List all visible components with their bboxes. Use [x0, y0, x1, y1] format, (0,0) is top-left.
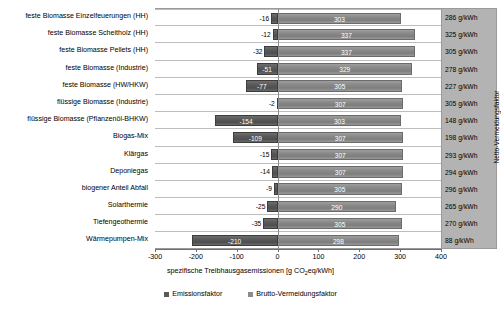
x-axis-tick [400, 249, 401, 252]
category-label: Wärmepumpen-Mix [0, 231, 152, 248]
x-axis-tick-label: 300 [394, 253, 406, 261]
category-label: Tiefengeothermie [0, 214, 152, 231]
x-axis-tick [318, 249, 319, 252]
bar-value-label: 303 [279, 116, 401, 127]
x-axis-line [155, 249, 441, 250]
bar-brutto-vermeidungsfaktor[interactable]: 329 [278, 63, 412, 74]
netto-value-cell: 305 g/kWh [442, 95, 488, 112]
x-axis-tick [196, 249, 197, 252]
netto-value-cell: 286 g/kWh [442, 9, 488, 26]
category-label: flüssige Biomasse (Industrie) [0, 94, 152, 111]
netto-value-cell: 148 g/kWh [442, 112, 488, 129]
bar-brutto-vermeidungsfaktor[interactable]: 303 [278, 115, 402, 126]
chart-row: -35305 [155, 215, 441, 232]
bar-value-label: -2 [269, 98, 275, 109]
netto-value-cell: 294 g/kWh [442, 164, 488, 181]
x-axis-tick-label: 0 [276, 253, 280, 261]
x-axis-tick-label: -200 [189, 253, 203, 261]
bar-brutto-vermeidungsfaktor[interactable]: 307 [278, 149, 403, 160]
chart-row: -154303 [155, 112, 441, 129]
chart-row: -14307 [155, 164, 441, 181]
bar-value-label: -16 [260, 13, 270, 24]
netto-value-cell: 278 g/kWh [442, 61, 488, 78]
bar-brutto-vermeidungsfaktor[interactable]: 305 [278, 218, 403, 229]
bar-value-label: 298 [279, 236, 399, 247]
category-label: biogener Anteil Abfall [0, 180, 152, 197]
bar-value-label: 337 [279, 30, 415, 41]
bar-value-label: -9 [266, 183, 272, 194]
bar-emissionsfaktor[interactable]: -210 [192, 235, 278, 246]
x-axis-tick [359, 249, 360, 252]
netto-axis-title-label: Netto-Vermeidungsfaktor [493, 9, 500, 245]
bar-emissionsfaktor[interactable] [267, 201, 277, 212]
netto-value-cell: 293 g/kWh [442, 147, 488, 164]
bar-emissionsfaktor[interactable] [263, 218, 277, 229]
x-axis-title: spezifische Treibhausgasemissionen [g CO… [0, 266, 501, 276]
zero-axis-line [278, 9, 279, 248]
category-label: Solarthermie [0, 197, 152, 214]
netto-value-cell: 198 g/kWh [442, 129, 488, 146]
bar-brutto-vermeidungsfaktor[interactable]: 307 [278, 132, 403, 143]
bar-brutto-vermeidungsfaktor[interactable]: 307 [278, 98, 403, 109]
netto-value-cell: 88 g/kWh [442, 232, 488, 249]
x-axis-tick [278, 249, 279, 252]
bar-brutto-vermeidungsfaktor[interactable]: 337 [278, 29, 416, 40]
bar-brutto-vermeidungsfaktor[interactable]: 290 [278, 201, 396, 212]
bar-value-label: 305 [279, 219, 402, 230]
netto-value-cell: 325 g/kWh [442, 26, 488, 43]
bar-value-label: -51 [258, 64, 277, 75]
bar-brutto-vermeidungsfaktor[interactable]: 307 [278, 166, 403, 177]
bar-value-label: -15 [260, 149, 270, 160]
category-label: feste Biomasse Scheitholz (HH) [0, 25, 152, 42]
chart-container: feste Biomasse Einzelfeuerungen (HH)fest… [0, 0, 501, 309]
x-axis-tick [237, 249, 238, 252]
bar-value-label: 290 [279, 202, 395, 213]
chart-row: -25290 [155, 198, 441, 215]
bar-brutto-vermeidungsfaktor[interactable]: 305 [278, 80, 403, 91]
category-axis-labels: feste Biomasse Einzelfeuerungen (HH)fest… [0, 8, 152, 249]
bar-emissionsfaktor[interactable]: -154 [215, 115, 278, 126]
bar-brutto-vermeidungsfaktor[interactable]: 337 [278, 46, 416, 57]
category-label: feste Biomasse Pellets (HH) [0, 42, 152, 59]
bar-emissionsfaktor[interactable] [264, 46, 277, 57]
bar-emissionsfaktor[interactable]: -77 [246, 80, 277, 91]
category-label: feste Biomasse Einzelfeuerungen (HH) [0, 8, 152, 25]
netto-value-cell: 296 g/kWh [442, 181, 488, 198]
bar-value-label: 305 [279, 184, 402, 195]
bar-value-label: 307 [279, 133, 402, 144]
bar-value-label: -154 [216, 116, 277, 127]
bar-value-label: -12 [261, 29, 271, 40]
chart-row: -77305 [155, 78, 441, 95]
bar-value-label: 303 [279, 14, 401, 25]
category-label: feste Biomasse (Industrie) [0, 60, 152, 77]
category-label: Deponiegas [0, 163, 152, 180]
chart-row: -15307 [155, 147, 441, 164]
plot-rows: -16303-12337-32337-51329-77305-2307-1543… [155, 9, 441, 248]
x-axis-tick [155, 249, 156, 252]
bar-brutto-vermeidungsfaktor[interactable]: 298 [278, 235, 400, 246]
bar-emissionsfaktor[interactable]: -51 [257, 63, 278, 74]
legend-label: Brutto-Vermeidungsfaktor [256, 290, 336, 298]
legend-swatch-icon [248, 292, 253, 297]
x-axis-tick-label: 100 [313, 253, 325, 261]
x-axis-tick-label: 200 [353, 253, 365, 261]
legend-item-brutto-vermeidungsfaktor: Brutto-Vermeidungsfaktor [248, 290, 336, 298]
category-label: Biogas-Mix [0, 128, 152, 145]
chart-row: -32337 [155, 43, 441, 60]
legend-item-emissionsfaktor: Emissionsfaktor [164, 290, 222, 298]
chart-row: -109307 [155, 129, 441, 146]
chart-row: -16303 [155, 9, 441, 26]
chart-legend: Emissionsfaktor Brutto-Vermeidungsfaktor [0, 290, 501, 298]
x-axis-tick-label: -100 [230, 253, 244, 261]
netto-value-column: 286 g/kWh325 g/kWh305 g/kWh278 g/kWh227 … [441, 8, 489, 249]
bar-brutto-vermeidungsfaktor[interactable]: 303 [278, 13, 402, 24]
bar-value-label: 307 [279, 150, 402, 161]
bar-value-label: -25 [256, 201, 266, 212]
category-label: flüssige Biomasse (Pflanzenöl-BHKW) [0, 111, 152, 128]
legend-swatch-icon [164, 292, 169, 297]
netto-axis-title: Netto-Vermeidungsfaktor [483, 8, 497, 249]
bar-value-label: -14 [260, 166, 270, 177]
netto-value-cell: 270 g/kWh [442, 215, 488, 232]
bar-emissionsfaktor[interactable]: -109 [233, 132, 278, 143]
bar-brutto-vermeidungsfaktor[interactable]: 305 [278, 183, 403, 194]
